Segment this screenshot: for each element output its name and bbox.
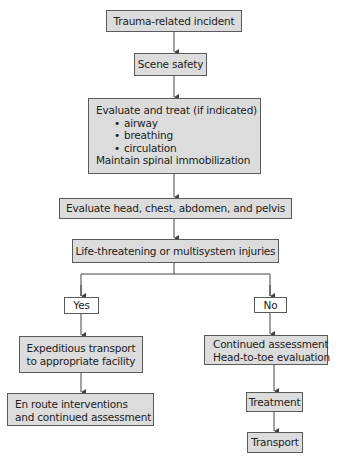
flowchart-canvas: Trauma-related incident Scene safety Eva… <box>0 0 347 466</box>
node-label: Evaluate head, chest, abdomen, and pelvi… <box>66 202 285 215</box>
node-label: Life-threatening or multisystem injuries <box>76 245 276 258</box>
bullet-airway: airway <box>96 117 260 130</box>
node-line-1: Continued assessment <box>213 338 327 351</box>
node-label: Treatment <box>249 396 301 409</box>
decision-no: No <box>254 297 287 313</box>
node-evaluate-and-treat: Evaluate and treat (if indicated) airway… <box>88 98 261 174</box>
node-footer: Maintain spinal immobilization <box>96 154 260 167</box>
node-line-1: En route interventions <box>15 398 153 411</box>
node-transport: Transport <box>247 432 303 453</box>
node-label: Transport <box>251 436 298 449</box>
node-title: Evaluate and treat (if indicated) <box>96 104 260 117</box>
decision-yes: Yes <box>64 297 99 314</box>
bullet-breathing: breathing <box>96 129 260 142</box>
node-life-threatening-injuries: Life-threatening or multisystem injuries <box>72 239 279 263</box>
node-continued-assessment: Continued assessment Head-to-toe evaluat… <box>204 335 328 365</box>
node-line-2: and continued assessment <box>15 411 153 424</box>
node-en-route-interventions: En route interventions and continued ass… <box>7 393 154 426</box>
node-label: No <box>264 299 278 312</box>
node-scene-safety: Scene safety <box>134 53 207 76</box>
node-label: Yes <box>73 299 89 312</box>
node-evaluate-head-chest: Evaluate head, chest, abdomen, and pelvi… <box>59 198 292 219</box>
node-line-2: to appropriate facility <box>27 355 136 368</box>
node-line-1: Expeditious transport <box>27 342 136 355</box>
node-label: Scene safety <box>138 58 203 71</box>
node-expeditious-transport: Expeditious transport to appropriate fac… <box>19 336 143 373</box>
node-label: Trauma-related incident <box>114 15 235 28</box>
bullet-circulation: circulation <box>96 142 260 155</box>
node-trauma-related-incident: Trauma-related incident <box>106 10 242 32</box>
node-treatment: Treatment <box>246 392 303 412</box>
node-line-2: Head-to-toe evaluation <box>213 351 327 364</box>
